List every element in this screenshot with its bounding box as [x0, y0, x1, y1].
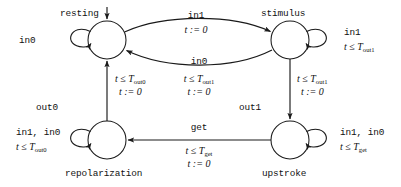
- automaton-canvas: resting stimulus repolarization upstroke…: [0, 0, 401, 187]
- transition-mid-reset: t := 0: [188, 86, 211, 97]
- transition-mid-guard: t ≤ Tout1: [184, 73, 215, 84]
- self-loop-upstroke-event: in1, in0: [340, 127, 385, 138]
- self-loop-resting-event: in0: [19, 35, 36, 46]
- state-label-repolarization: repolarization: [65, 168, 142, 179]
- transition-bottom-event: get: [191, 122, 208, 133]
- transition-left-event: out0: [36, 102, 59, 113]
- transition-left-guard: t ≤ Tout0: [115, 73, 146, 84]
- self-loop-stimulus-event: in1: [344, 27, 361, 38]
- transition-top-reset: t := 0: [185, 24, 208, 35]
- transition-bottom-reset: t := 0: [188, 158, 211, 169]
- transition-right-guard: t ≤ Tout1: [297, 73, 328, 84]
- transition-right-event: out1: [239, 102, 262, 113]
- transition-bottom-guard: t ≤ Tget: [186, 145, 213, 156]
- self-loop-repolarization-guard: t ≤ Tout0: [16, 141, 47, 152]
- state-upstroke[interactable]: [271, 121, 309, 159]
- transition-left-reset: t := 0: [119, 86, 142, 97]
- self-loop-repolarization-event: in1, in0: [16, 127, 61, 138]
- state-label-resting: resting: [60, 8, 99, 19]
- state-stimulus[interactable]: [271, 21, 309, 59]
- self-loop-stimulus-guard: t ≤ Tout1: [344, 41, 375, 52]
- state-resting[interactable]: [88, 21, 126, 59]
- state-machine-diagram: resting stimulus repolarization upstroke…: [0, 0, 401, 187]
- state-repolarization[interactable]: [88, 121, 126, 159]
- self-loop-upstroke-guard: t ≤ Tget: [340, 141, 367, 152]
- transition-right-reset: t := 0: [301, 86, 324, 97]
- state-label-stimulus: stimulus: [261, 8, 305, 19]
- state-label-upstroke: upstroke: [262, 168, 307, 179]
- transition-top-event: in1: [188, 10, 205, 21]
- transition-mid-event: in0: [191, 56, 208, 67]
